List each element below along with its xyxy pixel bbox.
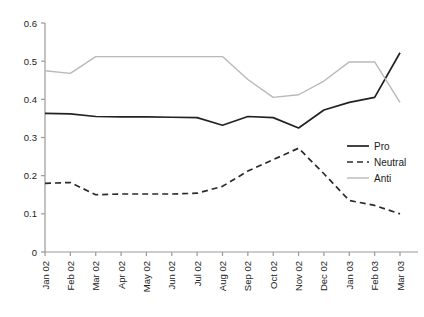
y-tick-label: 0.3 xyxy=(24,132,37,143)
y-tick-label: 0.6 xyxy=(24,18,37,29)
x-tick-label: Apr 02 xyxy=(116,261,127,289)
x-tick-label: Jan 02 xyxy=(40,261,51,290)
x-tick-label: Nov 02 xyxy=(293,261,304,291)
x-tick-label: Oct 02 xyxy=(268,261,279,289)
legend-label-anti: Anti xyxy=(374,173,391,184)
x-tick-label: Mar 02 xyxy=(90,261,101,291)
y-tick-label: 0.1 xyxy=(24,208,37,219)
chart-canvas: 00.10.20.30.40.50.6Jan 02Feb 02Mar 02Apr… xyxy=(0,0,424,317)
x-tick-label: Jul 02 xyxy=(192,261,203,286)
x-tick-label: Jun 02 xyxy=(166,261,177,290)
y-tick-label: 0 xyxy=(32,247,37,258)
x-tick-label: Feb 02 xyxy=(65,261,76,291)
x-tick-label: Jan 03 xyxy=(344,261,355,290)
x-tick-label: Feb 03 xyxy=(369,261,380,291)
x-tick-label: Sep 02 xyxy=(242,261,253,291)
series-line-anti xyxy=(45,57,400,103)
x-tick-label: Mar 03 xyxy=(395,261,406,291)
line-chart: 00.10.20.30.40.50.6Jan 02Feb 02Mar 02Apr… xyxy=(0,0,424,317)
legend-label-neutral: Neutral xyxy=(374,157,406,168)
x-tick-label: May 02 xyxy=(141,261,152,292)
y-tick-label: 0.2 xyxy=(24,170,37,181)
legend-label-pro: Pro xyxy=(374,141,390,152)
series-line-neutral xyxy=(45,148,400,214)
y-tick-label: 0.5 xyxy=(24,56,37,67)
x-tick-label: Aug 02 xyxy=(217,261,228,291)
x-tick-label: Dec 02 xyxy=(318,261,329,291)
y-tick-label: 0.4 xyxy=(24,94,37,105)
